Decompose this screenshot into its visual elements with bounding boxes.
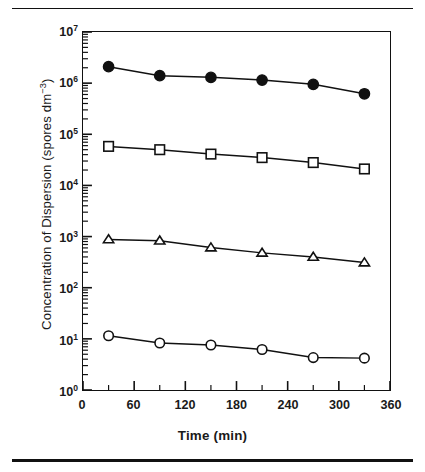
x-tick-label: 300 — [314, 398, 366, 412]
y-tick-label: 106 — [32, 74, 78, 90]
data-point — [206, 340, 216, 350]
series-open-circle-series — [104, 331, 369, 363]
data-point — [308, 79, 318, 89]
y-axis-tick-labels: 100101102103104105106107 — [26, 31, 78, 391]
data-point — [308, 158, 318, 168]
y-tick-label: 102 — [32, 280, 78, 296]
data-point — [359, 89, 369, 99]
y-tick-label: 105 — [32, 126, 78, 142]
axis-ticks — [83, 32, 390, 390]
data-point — [206, 72, 216, 82]
data-point — [257, 153, 267, 163]
data-point — [360, 164, 370, 174]
x-tick-label: 120 — [159, 398, 211, 412]
figure-panel: Concentration of Dispersion (spores dm−3… — [0, 0, 425, 472]
y-tick-label: 104 — [32, 177, 78, 193]
y-tick-label: 101 — [32, 331, 78, 347]
x-tick-label: 60 — [108, 398, 160, 412]
x-tick-label: 360 — [365, 398, 417, 412]
y-tick-label: 100 — [32, 383, 78, 399]
top-rule — [12, 8, 413, 9]
bottom-rule — [12, 459, 413, 462]
series-open-triangle-series — [103, 235, 369, 266]
series-open-square-series — [104, 142, 369, 174]
data-point — [104, 142, 114, 152]
y-tick-label: 107 — [32, 23, 78, 39]
data-point — [155, 338, 165, 348]
data-point — [155, 145, 165, 155]
x-axis-tick-labels: 060120180240300360 — [82, 398, 391, 418]
data-point — [360, 353, 370, 363]
series-filled-circle-series — [103, 61, 369, 98]
x-tick-label: 180 — [211, 398, 263, 412]
y-tick-label: 103 — [32, 229, 78, 245]
data-point — [103, 235, 113, 243]
x-axis-title: Time (min) — [0, 428, 425, 443]
data-point — [103, 61, 113, 71]
data-point — [257, 345, 267, 355]
data-point — [104, 331, 114, 341]
data-point — [308, 353, 318, 363]
chart-canvas — [83, 32, 390, 390]
data-point — [155, 70, 165, 80]
data-point — [257, 75, 267, 85]
x-tick-label: 0 — [56, 398, 108, 412]
data-point — [206, 149, 216, 159]
plot-area — [82, 31, 391, 391]
x-tick-label: 240 — [262, 398, 314, 412]
